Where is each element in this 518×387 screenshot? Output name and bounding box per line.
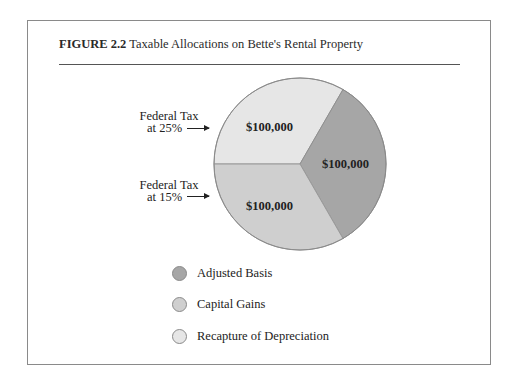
slice-value-capital-gains: $100,000 [246,199,293,214]
legend-item-recapture-of-depreciation: Recapture of Depreciation [172,329,329,344]
legend-item-capital-gains: Capital Gains [172,297,265,312]
legend-item-adjusted-basis: Adjusted Basis [172,266,272,281]
slice-value-adjusted-basis: $100,000 [322,157,369,172]
arrow-right-icon [187,128,209,129]
legend-swatch-icon [172,329,187,344]
annotation-federal-tax-15: Federal Tax at 15% [128,179,210,203]
annotation-federal-tax-25: Federal Tax at 25% [128,110,210,134]
legend-swatch-icon [172,297,187,312]
arrow-right-icon [187,196,209,197]
slice-value-recapture: $100,000 [246,120,293,135]
legend-swatch-icon [172,266,187,281]
